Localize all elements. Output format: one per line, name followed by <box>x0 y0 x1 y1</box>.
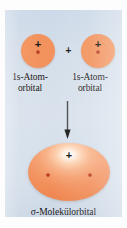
combine-plus-operator-icon: + <box>66 46 72 56</box>
atomic-orbital-left-label: 1s-Atom- orbital <box>4 72 56 94</box>
atomic-orbital-left-label-line2: orbital <box>4 83 56 94</box>
nucleus-dot-sigma-left-icon <box>46 173 49 176</box>
phase-sign-plus-right-icon: + <box>95 39 101 50</box>
nucleus-dot-left-icon <box>37 50 40 53</box>
nucleus-dot-sigma-right-icon <box>89 173 92 176</box>
sigma-molecular-orbital: + <box>28 143 110 201</box>
downward-arrow-icon <box>63 101 72 139</box>
phase-sign-plus-sigma-icon: + <box>66 149 72 160</box>
phase-sign-plus-left-icon: + <box>35 39 41 50</box>
atomic-orbital-right-label: 1s-Atom- orbital <box>64 72 116 94</box>
atomic-orbital-left-label-line1: 1s-Atom- <box>4 72 56 83</box>
atomic-orbital-right: + <box>81 34 115 68</box>
nucleus-dot-right-icon <box>97 50 100 53</box>
atomic-orbital-right-label-line2: orbital <box>64 83 116 94</box>
orbital-layer: + + + 1s-Atom- orbital 1s-Atom- orbital <box>5 10 122 217</box>
orbital-diagram-figure: + + + 1s-Atom- orbital 1s-Atom- orbital <box>0 0 127 228</box>
atomic-orbital-left: + <box>21 34 55 68</box>
atomic-orbital-right-label-line1: 1s-Atom- <box>64 72 116 83</box>
diagram-panel: + + + 1s-Atom- orbital 1s-Atom- orbital <box>5 10 122 217</box>
sigma-molecular-orbital-label: σ-Molekülorbital <box>5 207 122 218</box>
